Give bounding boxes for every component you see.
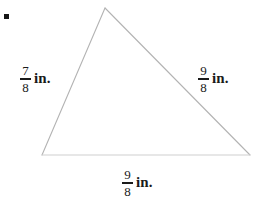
fraction-right-numerator: 9	[198, 64, 209, 77]
fraction-bottom-numerator: 9	[122, 168, 133, 181]
fraction-bottom: 9 8	[122, 168, 133, 198]
measurement-label-bottom: 9 8 in.	[122, 168, 153, 198]
fraction-left-numerator: 7	[20, 64, 31, 77]
fraction-right-denominator: 8	[198, 81, 209, 94]
fraction-left-denominator: 8	[20, 81, 31, 94]
fraction-right: 9 8	[198, 64, 209, 94]
triangle-figure: 7 8 in. 9 8 in. 9 8 in.	[0, 0, 271, 208]
triangle-left-edge	[42, 8, 105, 155]
unit-label-left: in.	[34, 71, 51, 86]
fraction-bottom-denominator: 8	[122, 185, 133, 198]
fraction-left: 7 8	[20, 64, 31, 94]
measurement-label-left: 7 8 in.	[20, 64, 51, 94]
unit-label-bottom: in.	[136, 175, 153, 190]
unit-label-right: in.	[212, 71, 229, 86]
measurement-label-right: 9 8 in.	[198, 64, 229, 94]
